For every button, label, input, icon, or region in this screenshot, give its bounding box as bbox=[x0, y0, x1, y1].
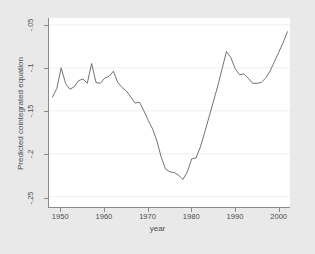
x-tick-label: 1970 bbox=[139, 212, 156, 221]
x-tick-label: 1960 bbox=[95, 212, 112, 221]
y-axis-title: Predicted cointegrated equation bbox=[14, 18, 26, 208]
x-tick-label: 1950 bbox=[52, 212, 69, 221]
x-tick-label: 1980 bbox=[183, 212, 200, 221]
chart-figure: Predicted cointegrated equation -.05-.1-… bbox=[0, 0, 315, 254]
y-tick-label: -.15 bbox=[26, 105, 35, 118]
x-axis-title: year bbox=[0, 224, 315, 233]
x-tick-label: 1990 bbox=[227, 212, 244, 221]
line-chart-svg bbox=[49, 18, 290, 207]
y-tick-label: -.1 bbox=[26, 64, 35, 73]
y-axis-title-text: Predicted cointegrated equation bbox=[16, 57, 25, 170]
x-tick-label: 2000 bbox=[270, 212, 287, 221]
y-tick-label: -.25 bbox=[26, 191, 35, 204]
gridlines bbox=[49, 25, 290, 197]
plot-area bbox=[48, 18, 290, 208]
data-series-line bbox=[52, 32, 287, 180]
y-tick-label: -.2 bbox=[26, 150, 35, 159]
y-tick-label: -.05 bbox=[26, 19, 35, 32]
